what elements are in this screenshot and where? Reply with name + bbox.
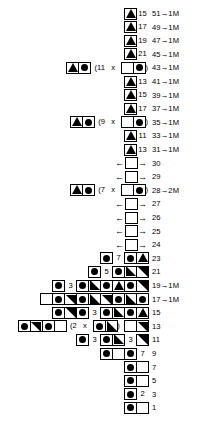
row-cells: ←→ bbox=[114, 157, 148, 170]
chart-row: 1341→1M bbox=[0, 75, 206, 88]
filled-circle-icon bbox=[125, 403, 136, 413]
row-instruction-label: 41→1M bbox=[152, 75, 206, 88]
stitch-cell bbox=[125, 157, 138, 169]
up-triangle-icon bbox=[113, 281, 124, 291]
up-triangle-icon bbox=[125, 36, 136, 46]
upper-right-triangle-icon bbox=[137, 267, 148, 277]
up-triangle-icon bbox=[125, 9, 136, 19]
repeat-count: 13 bbox=[136, 144, 149, 156]
row-cells bbox=[40, 293, 148, 306]
row-instruction-label: 45→1M bbox=[152, 48, 206, 61]
row-instruction-label: 15 bbox=[152, 306, 206, 319]
row-cells bbox=[124, 374, 148, 387]
chart-row: ←→26 bbox=[0, 211, 206, 224]
repeat-count: 2 bbox=[136, 388, 149, 400]
chart-row: (7 x )28→2M bbox=[0, 184, 206, 197]
chart-row: 17→1M bbox=[0, 293, 206, 306]
row-cells: (9 x ) bbox=[70, 116, 148, 129]
up-triangle-icon bbox=[125, 90, 136, 100]
row-instruction-label: 23 bbox=[152, 252, 206, 265]
row-instruction-label: 13 bbox=[152, 320, 206, 333]
chart-row: 5 bbox=[0, 374, 206, 387]
row-cells: 17 bbox=[124, 102, 148, 115]
repeat-group-text: ( bbox=[66, 320, 73, 332]
filled-circle-icon bbox=[134, 63, 145, 73]
repeat-count: 7 bbox=[136, 348, 149, 360]
arrow-right-icon: → bbox=[137, 225, 148, 237]
filled-circle-icon bbox=[77, 335, 88, 345]
stitch-cell bbox=[133, 62, 146, 74]
chart-row: 315 bbox=[0, 306, 206, 319]
chart-row: 2145→1M bbox=[0, 48, 206, 61]
filled-circle-icon bbox=[77, 294, 88, 304]
stitch-cell bbox=[136, 361, 149, 373]
repeat-group-text: ( bbox=[94, 116, 101, 128]
filled-circle-icon bbox=[134, 117, 145, 127]
filled-circle-icon bbox=[134, 185, 145, 195]
up-triangle-icon bbox=[125, 145, 136, 155]
stitch-cell bbox=[136, 320, 149, 332]
chart-row: ←→29 bbox=[0, 170, 206, 183]
lower-left-triangle-icon bbox=[89, 294, 100, 304]
row-cells: 7 bbox=[100, 252, 148, 265]
chart-row: 23 bbox=[0, 388, 206, 401]
filled-circle-icon bbox=[101, 308, 112, 318]
stitch-cell bbox=[136, 307, 149, 319]
row-instruction-label: 33→1M bbox=[152, 129, 206, 142]
up-triangle-icon bbox=[125, 49, 136, 59]
upper-right-triangle-icon bbox=[65, 294, 76, 304]
row-cells: 2 bbox=[124, 388, 148, 401]
filled-circle-icon bbox=[125, 389, 136, 399]
chart-row: 1539→1M bbox=[0, 89, 206, 102]
filled-circle-icon bbox=[101, 349, 112, 359]
chart-row: 723 bbox=[0, 252, 206, 265]
repeat-count: 17 bbox=[136, 103, 149, 115]
row-instruction-label: 29 bbox=[152, 170, 206, 183]
repeat-group-text: ( bbox=[94, 184, 101, 196]
filled-circle-icon bbox=[89, 267, 100, 277]
up-triangle-icon bbox=[125, 104, 136, 114]
up-triangle-icon bbox=[125, 77, 136, 87]
row-cells: 11 bbox=[124, 129, 148, 142]
chart-row: (11 x )43→1M bbox=[0, 61, 206, 74]
row-cells: 15 bbox=[124, 89, 148, 102]
up-triangle-icon bbox=[125, 22, 136, 32]
repeat-group-text: ( bbox=[90, 62, 97, 74]
row-instruction-label: 39→1M bbox=[152, 89, 206, 102]
filled-circle-icon bbox=[125, 308, 136, 318]
row-instruction-label: 35→1M bbox=[152, 116, 206, 129]
stitch-cell bbox=[54, 320, 67, 332]
row-instruction-label: 43→1M bbox=[152, 61, 206, 74]
chart-row: 79 bbox=[0, 347, 206, 360]
filled-circle-icon bbox=[125, 281, 136, 291]
row-instruction-label: 3 bbox=[152, 388, 206, 401]
row-cells: (7 x ) bbox=[70, 184, 148, 197]
row-cells: 17 bbox=[124, 21, 148, 34]
stitch-cell bbox=[136, 293, 149, 305]
row-cells: 3 bbox=[52, 279, 148, 292]
filled-circle-icon bbox=[83, 185, 94, 195]
stitch-cell bbox=[136, 334, 149, 346]
upper-right-triangle-icon bbox=[65, 308, 76, 318]
repeat-count: 15 bbox=[136, 89, 149, 101]
arrow-right-icon: → bbox=[137, 212, 148, 224]
stitch-cell bbox=[82, 184, 95, 196]
repeat-group-text: ) bbox=[117, 320, 124, 332]
row-cells: ←→ bbox=[114, 211, 148, 224]
filled-circle-icon bbox=[77, 308, 88, 318]
repeat-count: 13 bbox=[136, 76, 149, 88]
chart-row: 319→1M bbox=[0, 279, 206, 292]
arrow-left-icon: ← bbox=[114, 225, 125, 237]
row-cells: 21 bbox=[124, 48, 148, 61]
filled-circle-icon bbox=[79, 63, 90, 73]
chart-row: 1551→1M bbox=[0, 7, 206, 20]
row-instruction-label: 9 bbox=[152, 347, 206, 360]
stitch-cell bbox=[125, 212, 138, 224]
stitch-cell bbox=[125, 239, 138, 251]
row-cells: ←→ bbox=[114, 170, 148, 183]
filled-circle-icon bbox=[125, 362, 136, 372]
filled-circle-icon bbox=[125, 349, 136, 359]
row-instruction-label: 31→1M bbox=[152, 143, 206, 156]
row-instruction-label: 24 bbox=[152, 238, 206, 251]
filled-circle-icon bbox=[53, 281, 64, 291]
